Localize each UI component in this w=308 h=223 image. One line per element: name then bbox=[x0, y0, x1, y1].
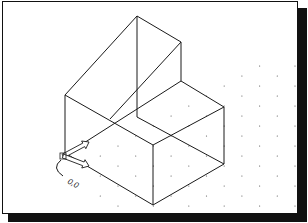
grid-dot bbox=[294, 145, 295, 146]
grid-dot bbox=[259, 185, 260, 186]
grid-dot bbox=[117, 185, 118, 186]
grid-dot bbox=[100, 155, 101, 156]
grid-dot bbox=[259, 165, 260, 166]
grid-dot bbox=[224, 85, 225, 86]
edge-line bbox=[65, 95, 153, 145]
edge-line bbox=[110, 42, 181, 119]
grid-dot bbox=[277, 115, 278, 116]
ucs-arrow-icons bbox=[60, 141, 89, 168]
grid-dot bbox=[206, 155, 207, 156]
edge-line bbox=[153, 107, 224, 145]
edge-line bbox=[181, 81, 224, 107]
grid-dot bbox=[259, 145, 260, 146]
grid-dot bbox=[259, 125, 260, 126]
grid-dot bbox=[117, 165, 118, 166]
origin-label: 0,0 bbox=[66, 177, 81, 190]
grid-dot bbox=[259, 85, 260, 86]
grid-dot bbox=[294, 205, 295, 206]
grid-dot bbox=[188, 185, 189, 186]
grid-dot bbox=[188, 165, 189, 166]
grid-dot bbox=[241, 135, 242, 136]
grid-dot bbox=[259, 205, 260, 206]
grid-dot bbox=[294, 85, 295, 86]
grid-dot bbox=[277, 175, 278, 176]
grid-dot bbox=[259, 65, 260, 66]
grid-dot bbox=[171, 155, 172, 156]
grid-dot bbox=[171, 115, 172, 116]
grid-dot bbox=[241, 75, 242, 76]
grid-dot bbox=[224, 185, 225, 186]
grid-dot bbox=[259, 105, 260, 106]
grid-dot bbox=[100, 175, 101, 176]
edge-line bbox=[137, 16, 181, 42]
grid-dot bbox=[294, 125, 295, 126]
grid-dot bbox=[171, 195, 172, 196]
grid-dot bbox=[224, 165, 225, 166]
grid-dot bbox=[188, 205, 189, 206]
grid-dot bbox=[135, 155, 136, 156]
grid-dot bbox=[277, 75, 278, 76]
grid-dot bbox=[277, 95, 278, 96]
grid-dot bbox=[277, 195, 278, 196]
grid-dot bbox=[153, 205, 154, 206]
wireframe-edges bbox=[65, 16, 224, 205]
snap-grid-dots bbox=[100, 65, 296, 206]
grid-dot bbox=[294, 165, 295, 166]
grid-dot bbox=[277, 155, 278, 156]
grid-dot bbox=[277, 135, 278, 136]
grid-dot bbox=[224, 205, 225, 206]
edge-line bbox=[137, 117, 224, 164]
grid-dot bbox=[206, 195, 207, 196]
edge-line bbox=[153, 164, 224, 205]
grid-dot bbox=[206, 175, 207, 176]
grid-dot bbox=[117, 145, 118, 146]
edge-line bbox=[65, 16, 137, 95]
grid-dot bbox=[241, 95, 242, 96]
grid-dot bbox=[171, 175, 172, 176]
grid-dot bbox=[117, 205, 118, 206]
cad-viewport[interactable]: 0,0 bbox=[2, 1, 298, 214]
ucs-icon: 0,0 bbox=[56, 141, 89, 190]
grid-dot bbox=[241, 195, 242, 196]
grid-dot bbox=[294, 185, 295, 186]
grid-dot bbox=[100, 195, 101, 196]
grid-dot bbox=[241, 175, 242, 176]
grid-dot bbox=[135, 175, 136, 176]
grid-dot bbox=[294, 105, 295, 106]
grid-dot bbox=[206, 135, 207, 136]
isometric-drawing: 0,0 bbox=[3, 2, 299, 215]
ucs-arc bbox=[56, 160, 63, 176]
grid-dot bbox=[294, 65, 295, 66]
grid-dot bbox=[241, 155, 242, 156]
grid-dot bbox=[241, 115, 242, 116]
grid-dot bbox=[188, 105, 189, 106]
